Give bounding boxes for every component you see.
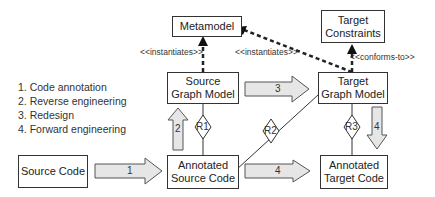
relation-r3: R3: [345, 121, 358, 132]
instantiates-label: <<instantiates>>: [140, 47, 203, 57]
legend-item: 1. Code annotation: [18, 80, 127, 94]
annotated-source-code-node: Annotated Source Code: [167, 155, 239, 189]
arrow-3-label: 3: [275, 83, 281, 94]
legend-item: 2. Reverse engineering: [18, 94, 127, 108]
legend-item: 3. Redesign: [18, 108, 127, 122]
legend: 1. Code annotation 2. Reverse engineerin…: [18, 80, 127, 136]
instantiates-label: <<instantiates>>: [235, 47, 298, 57]
relation-r2: R2: [264, 125, 277, 136]
relation-r1: R1: [196, 121, 209, 132]
conforms-to-label: <<conforms-to>>: [350, 52, 415, 62]
arrow-1-label: 1: [127, 165, 133, 176]
metamodel-node: Metamodel: [172, 16, 242, 37]
target-graph-model-node: Target Graph Model: [318, 72, 388, 104]
target-constraints-node: Target Constraints: [321, 10, 385, 43]
annotated-target-code-node: Annotated Target Code: [320, 155, 388, 189]
arrow-4-label: 4: [275, 165, 281, 176]
source-code-node: Source Code: [18, 155, 88, 188]
arrow-4-label: 4: [374, 121, 380, 132]
source-graph-model-node: Source Graph Model: [167, 72, 239, 104]
arrow-2-label: 2: [175, 123, 181, 134]
legend-item: 4. Forward engineering: [18, 122, 127, 136]
